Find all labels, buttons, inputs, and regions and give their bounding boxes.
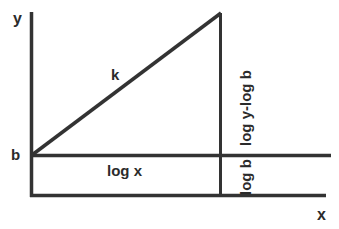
log-log-plot-figure: y x b k log x log y-log b log b <box>0 0 339 229</box>
slope-line <box>32 13 221 155</box>
slope-label: k <box>111 67 119 82</box>
x-axis-label: x <box>317 207 326 223</box>
y-axis-label: y <box>13 11 22 27</box>
intercept-label: b <box>11 147 20 162</box>
rise-label: log y-log b <box>238 70 253 146</box>
run-label: log x <box>107 163 142 178</box>
plot-lines <box>0 0 339 229</box>
offset-label: log b <box>238 159 253 195</box>
